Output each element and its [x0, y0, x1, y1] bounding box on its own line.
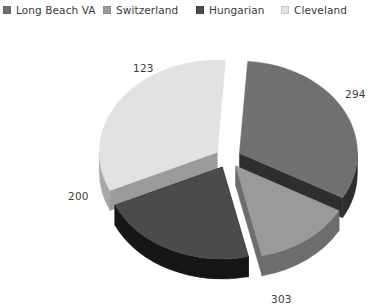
- legend-item-long-beach-va[interactable]: Long Beach VA: [3, 2, 96, 18]
- slice-value-label-long-beach-va: 294: [345, 88, 366, 100]
- legend-item-label: Hungarian: [209, 4, 265, 16]
- chart-legend: Long Beach VA Switzerland Hungarian Clev…: [0, 0, 373, 22]
- legend-item-hungarian[interactable]: Hungarian: [196, 2, 265, 18]
- legend-item-label: Cleveland: [294, 4, 347, 16]
- legend-swatch-icon: [103, 6, 111, 14]
- slice-value-label-hungarian: 200: [68, 190, 89, 202]
- legend-item-label: Long Beach VA: [16, 4, 96, 16]
- slice-value-label-cleveland: 303: [271, 293, 292, 305]
- pie-svg: [0, 20, 373, 296]
- legend-swatch-icon: [196, 6, 204, 14]
- legend-swatch-icon: [281, 6, 289, 14]
- pie-plot-area: 123 294 200 303: [0, 20, 373, 296]
- legend-swatch-icon: [3, 6, 11, 14]
- legend-item-switzerland[interactable]: Switzerland: [103, 2, 178, 18]
- legend-item-cleveland[interactable]: Cleveland: [281, 2, 347, 18]
- slice-value-label-switzerland: 123: [133, 62, 154, 74]
- legend-item-label: Switzerland: [116, 4, 178, 16]
